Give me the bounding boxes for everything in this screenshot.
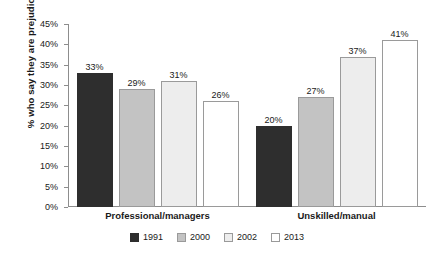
y-axis-tick: 45% xyxy=(64,24,68,25)
y-axis-tick-label: 25% xyxy=(40,100,58,110)
bar-value-label: 41% xyxy=(390,29,408,39)
y-axis-tick: 40% xyxy=(64,44,68,45)
legend-item-2002[interactable]: 2002 xyxy=(224,232,257,242)
y-axis-tick-label: 10% xyxy=(40,161,58,171)
bar-2013-1: 26% xyxy=(203,101,239,207)
legend-item-2000[interactable]: 2000 xyxy=(177,232,210,242)
legend-label: 2002 xyxy=(237,232,257,242)
bar-value-label: 26% xyxy=(211,90,229,100)
y-axis-tick: 15% xyxy=(64,146,68,147)
y-axis-tick-label: 35% xyxy=(40,60,58,70)
y-axis-tick-label: 40% xyxy=(40,39,58,49)
x-axis-group-label: Unskilled/manual xyxy=(297,210,375,221)
y-axis-tick: 5% xyxy=(64,187,68,188)
bar-2002-1: 31% xyxy=(161,81,197,207)
y-axis-tick-label: 5% xyxy=(45,182,58,192)
bar-2000-1: 29% xyxy=(119,89,155,207)
y-axis-tick: 10% xyxy=(64,166,68,167)
bar-2013-2: 41% xyxy=(382,40,418,207)
bar-value-label: 31% xyxy=(169,70,187,80)
bar-2002-2: 37% xyxy=(340,57,376,207)
bar-1991-2: 20% xyxy=(256,126,292,207)
legend-swatch-icon xyxy=(271,233,280,242)
legend: 1991200020022013 xyxy=(0,232,434,242)
y-axis-tick: 35% xyxy=(64,65,68,66)
legend-label: 2013 xyxy=(284,232,304,242)
bar-2000-2: 27% xyxy=(298,97,334,207)
y-axis-tick: 30% xyxy=(64,85,68,86)
legend-swatch-icon xyxy=(224,233,233,242)
legend-swatch-icon xyxy=(177,233,186,242)
y-axis-tick: 0% xyxy=(64,207,68,208)
y-axis-tick: 20% xyxy=(64,126,68,127)
y-axis-tick: 25% xyxy=(64,105,68,106)
y-axis-tick-label: 30% xyxy=(40,80,58,90)
y-axis-tick-label: 20% xyxy=(40,121,58,131)
bar-1991-1: 33% xyxy=(77,73,113,207)
legend-label: 1991 xyxy=(143,232,163,242)
bar-value-label: 33% xyxy=(85,62,103,72)
bar-chart: % who say they are prejudiced 45%40%35%3… xyxy=(0,0,434,258)
y-axis-line xyxy=(68,24,69,207)
bar-value-label: 27% xyxy=(306,86,324,96)
plot-area: 45%40%35%30%25%20%15%10%5%0% 33%29%31%26… xyxy=(68,24,426,207)
legend-swatch-icon xyxy=(130,233,139,242)
bar-value-label: 29% xyxy=(127,78,145,88)
x-axis-group-label: Professional/managers xyxy=(105,210,210,221)
y-axis-tick-label: 45% xyxy=(40,19,58,29)
legend-label: 2000 xyxy=(190,232,210,242)
y-axis-title: % who say they are prejudiced xyxy=(25,0,36,150)
bar-value-label: 37% xyxy=(348,46,366,56)
legend-item-1991[interactable]: 1991 xyxy=(130,232,163,242)
bar-value-label: 20% xyxy=(264,115,282,125)
legend-item-2013[interactable]: 2013 xyxy=(271,232,304,242)
y-axis-tick-label: 0% xyxy=(45,202,58,212)
y-axis-tick-label: 15% xyxy=(40,141,58,151)
